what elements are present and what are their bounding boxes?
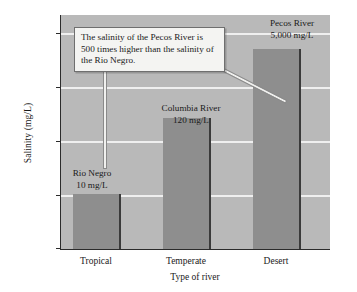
x-tick-label-desert: Desert [228,256,324,266]
bar-annotation-temperate-value: 120 mg/L [143,115,239,127]
bar-annotation-tropical-river: Rio Negro [56,168,128,180]
callout-leader-line-left [104,70,106,168]
x-tick-label-temperate: Temperate [138,256,234,266]
x-axis-title: Type of river [60,272,330,282]
bar-annotation-desert-river: Pecos River [249,18,335,30]
bar-annotation-tropical: Rio Negro 10 mg/L [56,168,128,191]
salinity-bar-chart: Salinity (mg/L) 10,000 1,000 100 10 1 [0,0,357,292]
callout-box: The salinity of the Pecos River is 500 t… [74,27,225,72]
bar-annotation-temperate: Columbia River 120 mg/L [143,103,239,126]
bar-annotation-temperate-river: Columbia River [143,103,239,115]
bar-annotation-desert-value: 5,000 mg/L [249,30,335,42]
bar-temperate[interactable] [163,118,211,249]
bar-tropical[interactable] [73,194,121,249]
bar-annotation-tropical-value: 10 mg/L [56,180,128,192]
bar-annotation-desert: Pecos River 5,000 mg/L [249,18,335,41]
y-tick-mark-1 [56,248,61,249]
y-axis-title: Salinity (mg/L) [23,53,33,213]
x-tick-label-tropical: Tropical [48,256,144,266]
bar-desert[interactable] [253,49,301,249]
